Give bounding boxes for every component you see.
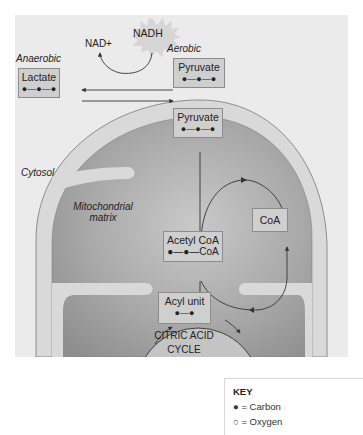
matrix-label-line1: Mitochondrial xyxy=(63,201,143,212)
carbon-chain: ●—●—CoA xyxy=(164,247,222,257)
nad-label: NAD+ xyxy=(85,38,112,49)
acetyl-coa-box: Acetyl CoA ●—●—CoA xyxy=(163,231,223,262)
lactate-box: Lactate ●—●—● xyxy=(18,68,60,98)
pyruvate-cytosol-box: Pyruvate ●—●—● xyxy=(173,58,225,88)
key-item-carbon: ● = Carbon xyxy=(233,401,281,412)
matrix-label: Mitochondrial matrix xyxy=(63,201,143,223)
pyruvate-name: Pyruvate xyxy=(174,61,224,74)
cycle-line2: CYCLE xyxy=(149,343,219,357)
key-item-oxygen: ○ = Oxygen xyxy=(233,416,282,427)
cytosol-label: Cytosol xyxy=(21,167,54,178)
oxygen-label: = Oxygen xyxy=(241,416,282,427)
key-legend: KEY ● = Carbon ○ = Oxygen xyxy=(224,378,363,435)
carbon-chain: ●—●—● xyxy=(174,74,224,84)
pyruvate-mito-box: Pyruvate ●—●—● xyxy=(173,108,223,138)
matrix-label-line2: matrix xyxy=(63,212,143,223)
carbon-symbol-icon: ● xyxy=(233,401,239,412)
acyl-unit-name: Acyl unit xyxy=(159,295,210,308)
coa-name: CoA xyxy=(253,214,287,227)
acyl-unit-box: Acyl unit ●—● xyxy=(158,292,211,324)
lactate-name: Lactate xyxy=(19,71,59,84)
anaerobic-label: Anaerobic xyxy=(16,53,61,64)
nadh-label: NADH xyxy=(133,27,163,39)
coa-box: CoA xyxy=(252,208,288,232)
cycle-line1: CITRIC ACID xyxy=(149,329,219,343)
oxygen-symbol-icon: ○ xyxy=(233,416,239,427)
pyruvate-name: Pyruvate xyxy=(174,111,222,124)
key-title: KEY xyxy=(233,386,253,397)
citric-acid-cycle-label: CITRIC ACID CYCLE xyxy=(149,329,219,357)
carbon-label: = Carbon xyxy=(241,401,280,412)
aerobic-label: Aerobic xyxy=(167,43,201,54)
carbon-chain: ●—● xyxy=(159,308,210,318)
carbon-chain: ●—●—● xyxy=(19,84,59,94)
carbon-chain: ●—●—● xyxy=(174,124,222,134)
diagram-panel: NADH NAD+ Anaerobic Aerobic Cytosol Mito… xyxy=(15,15,348,357)
